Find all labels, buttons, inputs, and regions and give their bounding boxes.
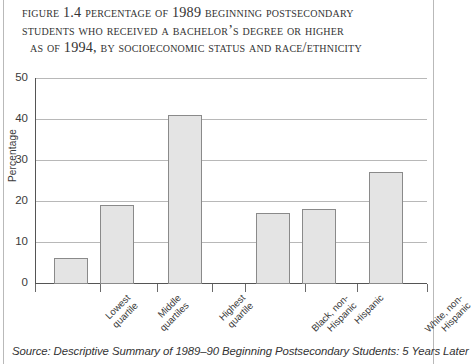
source-note: Source: Descriptive Summary of 1989–90 B… [12, 345, 432, 357]
bar [256, 213, 290, 284]
gridline [35, 119, 427, 120]
y-axis-tick-label: 40 [2, 112, 28, 124]
x-axis-tick [100, 284, 101, 292]
y-axis-tick-label: 50 [2, 71, 28, 83]
y-axis-tick-label: 20 [2, 194, 28, 206]
x-axis-tick [357, 284, 358, 292]
x-axis-category-label: Lowestquartile [102, 292, 140, 330]
x-axis-category-label: Highestquartile [217, 292, 256, 331]
y-axis-line [35, 78, 36, 284]
y-axis-tick-label: 10 [2, 235, 28, 247]
x-axis-category-label: White, non-Hispanic [422, 292, 472, 342]
gridline [35, 78, 427, 79]
x-axis-tick [212, 284, 213, 292]
x-axis-tick [35, 284, 36, 292]
x-axis-category-label: Middlequartiles [150, 292, 191, 333]
bar [369, 172, 403, 284]
bar [168, 115, 202, 284]
x-axis-tick [245, 284, 246, 292]
y-axis-tick-label: 0 [2, 276, 28, 288]
bar [302, 209, 336, 284]
bar [54, 258, 88, 284]
x-axis-tick [157, 284, 158, 292]
gridline [35, 160, 427, 161]
y-axis-tick-label: 30 [2, 153, 28, 165]
x-axis-tick [427, 284, 428, 292]
bar [100, 205, 134, 284]
x-axis-tick [305, 284, 306, 292]
